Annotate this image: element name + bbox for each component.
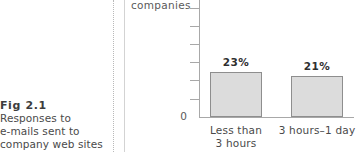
y-axis-tick xyxy=(190,44,199,45)
x-axis-category-label: 3 hours–1 day xyxy=(265,124,360,137)
x-axis-line xyxy=(199,117,354,118)
bar[interactable] xyxy=(291,76,343,117)
y-axis-tick xyxy=(190,80,199,81)
caption-line: e-mails sent to xyxy=(0,125,110,138)
y-axis-tick xyxy=(190,8,199,9)
y-axis-tick xyxy=(190,26,199,27)
bar-data-label: 23% xyxy=(196,56,276,68)
y-axis-title: companies xyxy=(131,0,191,11)
bar-chart: companies 0 23% Less than 3 hours 21% 3 … xyxy=(124,0,354,152)
caption-line: company web sites xyxy=(0,138,110,151)
y-axis-zero-label: 0 xyxy=(176,110,187,122)
figure-caption-title: Fig 2.1 xyxy=(0,99,110,112)
bar-data-label: 21% xyxy=(277,60,357,72)
margin-dotted-rule xyxy=(113,0,114,152)
figure-caption-body: Responses to e-mails sent to company web… xyxy=(0,112,110,152)
y-axis-tick xyxy=(190,99,199,100)
bar[interactable] xyxy=(210,72,262,117)
figure-caption: Fig 2.1 Responses to e-mails sent to com… xyxy=(0,99,110,152)
category-line: 3 hours–1 day xyxy=(265,124,360,137)
caption-line: Responses to xyxy=(0,112,110,125)
category-line: 3 hours xyxy=(184,137,288,150)
